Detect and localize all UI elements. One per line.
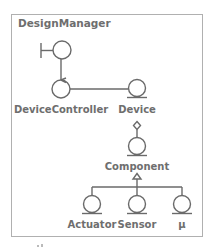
mu-label: μ	[178, 219, 186, 230]
actuator-label: Actuator	[68, 219, 117, 230]
device-label: Device	[118, 104, 156, 115]
package-title: DesignManager	[18, 17, 111, 29]
sensor-label: Sensor	[118, 219, 157, 230]
robustness-diagram: DesignManager DeviceController Device Co…	[0, 0, 212, 247]
component-label: Component	[105, 161, 170, 172]
controller-label: DeviceController	[14, 104, 108, 115]
